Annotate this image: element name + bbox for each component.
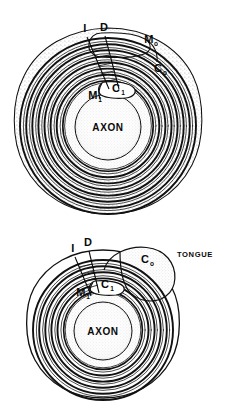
label-lower-tongue: TONGUE — [177, 250, 213, 259]
label-lower-D: D — [84, 236, 92, 248]
label-upper-D: D — [100, 21, 108, 33]
myelin-diagram-figure: I D M o C o M 1 C 1 AXON — [0, 0, 225, 410]
label-upper-Mo-subscript: o — [154, 40, 158, 47]
label-lower-axon: AXON — [87, 326, 118, 337]
label-upper-C1-letter: C — [112, 82, 120, 94]
label-upper-M1-letter: M — [88, 89, 97, 101]
label-lower-M1-subscript: 1 — [86, 293, 90, 300]
label-upper-Co-letter: C — [154, 62, 162, 74]
label-lower-C1-letter: C — [101, 278, 109, 290]
label-upper-Mo-letter: M — [144, 33, 153, 45]
label-upper-Co-subscript: o — [163, 69, 167, 76]
label-upper-C1-subscript: 1 — [121, 89, 125, 96]
label-upper-axon: AXON — [92, 122, 123, 133]
label-lower-Co-letter: C — [141, 253, 149, 265]
label-upper-I: I — [83, 22, 86, 34]
label-lower-Co-subscript: o — [150, 260, 154, 267]
lower-fiber-panel: I D C o M 1 C 1 TONGUE AXON — [27, 236, 213, 400]
upper-fiber-panel: I D M o C o M 1 C 1 AXON — [14, 21, 202, 214]
label-upper-Mo: M o — [144, 33, 158, 47]
label-upper-M1-subscript: 1 — [98, 96, 102, 103]
diagram-canvas: I D M o C o M 1 C 1 AXON — [0, 0, 225, 410]
label-lower-C1-subscript: 1 — [110, 285, 114, 292]
label-lower-M1-letter: M — [76, 286, 85, 298]
label-lower-I: I — [71, 242, 74, 254]
